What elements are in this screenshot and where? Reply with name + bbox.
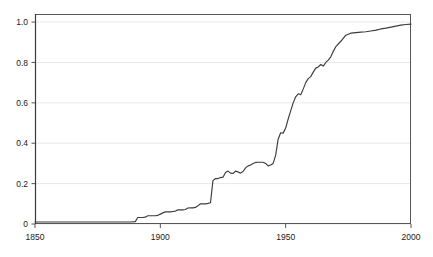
y-tick-label: 0.2 (0, 179, 28, 189)
data-series-group (35, 24, 411, 222)
y-tick-label: 1.0 (0, 17, 28, 27)
y-tick-label: 0.4 (0, 138, 28, 148)
data-line-cumulative-fraction (35, 24, 411, 222)
axes-border (36, 15, 411, 224)
x-tick-label: 1950 (276, 232, 295, 242)
x-tick-label: 1850 (26, 232, 45, 242)
gridlines-group (35, 22, 411, 224)
y-tick-label: 0.8 (0, 58, 28, 68)
chart-plot-area (0, 0, 433, 257)
y-tick-label: 0.6 (0, 98, 28, 108)
x-tick-label: 2000 (402, 232, 421, 242)
plot-frame (36, 14, 411, 224)
y-tick-label: 0 (0, 219, 28, 229)
x-tick-label: 1900 (151, 232, 170, 242)
chart-figure: 00.20.40.60.81.0 1850190019502000 (0, 0, 433, 257)
tick-marks-group (32, 22, 412, 228)
